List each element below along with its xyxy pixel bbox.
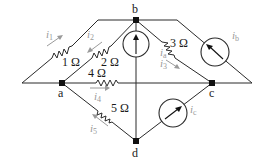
resistor-4-ohm — [96, 80, 118, 86]
current-i2: i2 — [87, 28, 102, 53]
current-i4: i4 — [90, 85, 110, 104]
resistor-5-ohm — [97, 111, 112, 123]
circuit-diagram: a b c d 1 Ω 2 Ω 3 Ω 4 Ω 5 Ω i1 i2 i3 ia … — [0, 0, 270, 164]
current-source-ib — [201, 38, 229, 66]
current-i1: i1 — [46, 28, 63, 46]
resistor-label-5: 5 Ω — [111, 101, 129, 115]
node-label-d: d — [132, 146, 138, 160]
svg-text:ib: ib — [232, 29, 239, 43]
resistor-label-4: 4 Ω — [88, 66, 106, 80]
svg-text:ia: ia — [160, 46, 167, 60]
branch-4-ohm — [22, 80, 212, 86]
node-label-c: c — [209, 86, 214, 100]
resistor-label-1: 1 Ω — [62, 55, 80, 69]
node-label-a: a — [58, 86, 64, 100]
svg-text:ic: ic — [190, 103, 197, 117]
node-d — [133, 138, 139, 144]
svg-text:i1: i1 — [46, 28, 53, 42]
current-source-ia — [123, 31, 149, 57]
current-source-ic — [159, 99, 187, 127]
current-label-ic: ic — [190, 103, 197, 117]
svg-text:i5: i5 — [90, 122, 97, 136]
node-b — [133, 17, 139, 23]
current-label-ia: ia — [160, 46, 167, 60]
svg-text:i4: i4 — [94, 90, 101, 104]
node-label-b: b — [132, 2, 138, 16]
svg-text:i2: i2 — [87, 28, 94, 42]
current-label-ib: ib — [232, 29, 239, 43]
resistor-label-3: 3 Ω — [170, 36, 188, 50]
